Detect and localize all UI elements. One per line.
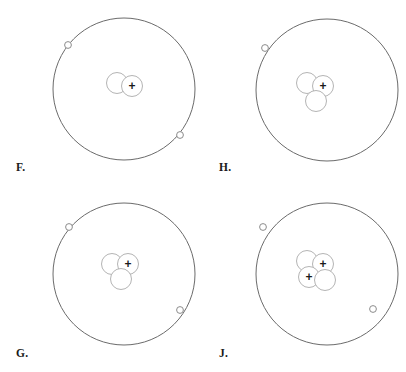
electron-marker <box>260 224 267 231</box>
proton-charge-symbol: + <box>319 79 326 93</box>
atom-drawing-g: + <box>0 186 203 372</box>
atom-drawing-h: + <box>203 0 406 186</box>
atom-diagram-g: +G. <box>0 186 203 372</box>
atom-drawing-j: ++ <box>203 186 406 372</box>
diagram-label-h: H. <box>219 162 231 174</box>
proton-charge-symbol: + <box>128 79 135 93</box>
atomic-models-figure: +F.+H.+G.++J. <box>0 0 406 372</box>
electron-marker <box>66 224 73 231</box>
atom-diagram-f: +F. <box>0 0 203 186</box>
electron-marker <box>370 306 377 313</box>
electron-marker <box>177 307 184 314</box>
diagram-label-j: J. <box>219 348 228 360</box>
proton-charge-symbol: + <box>305 270 312 284</box>
atom-diagram-j: ++J. <box>203 186 406 372</box>
electron-marker <box>177 132 184 139</box>
nucleus: + <box>107 73 143 97</box>
neutron-circle <box>111 269 132 290</box>
diagram-label-f: F. <box>16 162 25 174</box>
electron-marker <box>262 45 269 52</box>
nucleus: + <box>297 73 334 112</box>
diagram-label-g: G. <box>16 348 28 360</box>
nucleus: ++ <box>297 251 336 291</box>
neutron-circle <box>315 270 336 291</box>
nucleus: + <box>102 254 139 290</box>
atom-diagram-h: +H. <box>203 0 406 186</box>
neutron-circle <box>306 91 327 112</box>
atom-drawing-f: + <box>0 0 203 186</box>
proton-charge-symbol: + <box>319 257 326 271</box>
electron-marker <box>65 42 72 49</box>
proton-charge-symbol: + <box>124 257 131 271</box>
